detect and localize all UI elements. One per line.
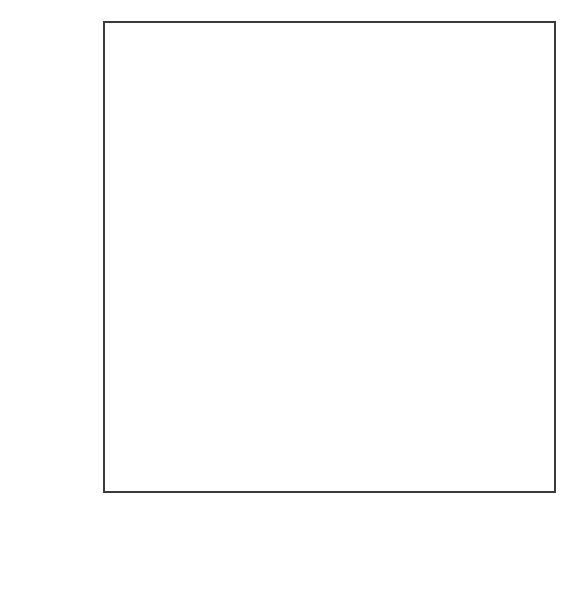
plot-panel <box>103 21 556 493</box>
chart-figure <box>0 0 587 594</box>
plot-area-svg <box>105 23 556 493</box>
x-axis-tick-labels <box>0 497 587 537</box>
